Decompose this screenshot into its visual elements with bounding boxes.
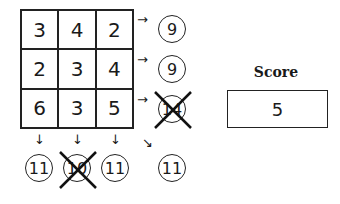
arrow-down-icon: ↓ — [72, 133, 83, 146]
arrow-down-icon: ↓ — [34, 133, 45, 146]
col-sum-circle: 11 — [25, 154, 53, 182]
row-sum-circle: 9 — [158, 15, 186, 43]
number-grid: 3 4 2 2 3 4 6 3 5 — [20, 9, 134, 129]
col-sum-circle-crossed: 10 — [63, 154, 91, 182]
grid-cell: 3 — [58, 49, 95, 88]
score-box: 5 — [227, 90, 328, 128]
arrow-down-icon: ↓ — [110, 133, 121, 146]
grid-cell: 2 — [21, 49, 58, 88]
grid-cell: 3 — [21, 10, 58, 49]
score-label: Score — [226, 64, 326, 80]
row-sum-circle-crossed: 14 — [158, 95, 186, 123]
grid-cell: 4 — [96, 49, 133, 88]
col-sum-circle: 11 — [101, 154, 129, 182]
grid-cell: 4 — [58, 10, 95, 49]
arrow-right-icon: → — [137, 53, 148, 66]
grid-cell: 6 — [21, 89, 58, 128]
row-sum-circle: 9 — [158, 55, 186, 83]
grid-cell: 3 — [58, 89, 95, 128]
grid-cell: 5 — [96, 89, 133, 128]
arrow-right-icon: → — [137, 93, 148, 106]
arrow-diagonal-icon: ↘ — [142, 136, 153, 149]
score-value: 5 — [272, 99, 283, 120]
arrow-right-icon: → — [137, 13, 148, 26]
grid-cell: 2 — [96, 10, 133, 49]
diagonal-sum-circle: 11 — [158, 154, 186, 182]
